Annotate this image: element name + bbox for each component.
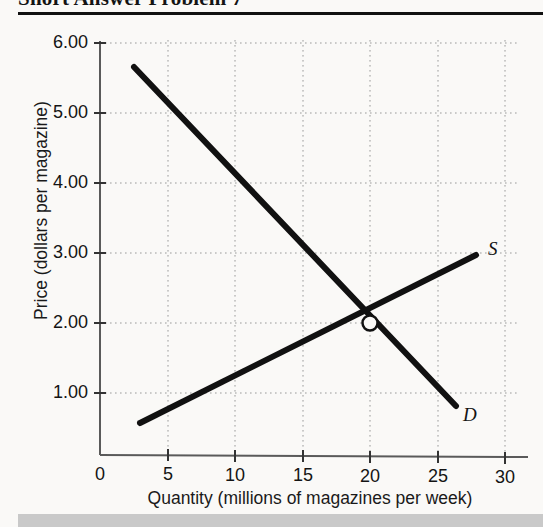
xtick-label: 20 [348, 466, 392, 487]
ytick-label: 4.00 [18, 172, 88, 193]
xtick-label: 10 [213, 465, 257, 486]
demand-curve [134, 67, 456, 406]
supply-curve [140, 255, 476, 423]
demand-curve-label: D [463, 404, 477, 426]
ytick-label: 5.00 [18, 102, 88, 123]
supply-curve-label: S [488, 238, 498, 260]
xtick-label: 15 [281, 465, 325, 486]
xtick-label: 30 [483, 467, 527, 488]
figure-page: Short Answer Problem 7 [0, 0, 543, 527]
supply-demand-chart [0, 0, 543, 527]
equilibrium-point-marker [363, 316, 378, 331]
ytick-label: 1.00 [18, 382, 88, 403]
xtick-label: 0 [78, 464, 122, 485]
x-axis-title: Quantity (millions of magazines per week… [100, 488, 520, 509]
y-axis-title: Price (dollars per magazine) [31, 46, 52, 376]
footer-band [18, 514, 543, 527]
xtick-label: 5 [146, 464, 190, 485]
ytick-label: 3.00 [18, 242, 88, 263]
x-axis [100, 455, 528, 457]
ytick-label: 6.00 [18, 32, 88, 53]
xtick-label: 25 [416, 466, 460, 487]
ytick-label: 2.00 [18, 312, 88, 333]
